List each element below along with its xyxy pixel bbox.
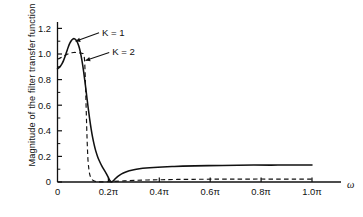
x-tick-label-3: 0.6π xyxy=(200,186,220,197)
x-tick-label-4: 0.8π xyxy=(251,186,271,197)
x-axis-label: ω xyxy=(347,179,354,190)
y-tick-label-0: 0 xyxy=(46,176,51,187)
x-tick-label-0: 0 xyxy=(55,186,60,197)
y-axis-tick-labels: 00.20.40.60.81.01.2 xyxy=(38,23,51,188)
y-axis-ticks xyxy=(58,28,63,182)
y-tick-label-5: 1.0 xyxy=(38,48,51,59)
x-tick-label-2: 0.4π xyxy=(150,186,170,197)
y-tick-label-2: 0.4 xyxy=(38,125,51,136)
figure-container: Magnitude of the filter transfer functio… xyxy=(0,0,363,217)
y-tick-label-6: 1.2 xyxy=(38,23,51,34)
series-line-k1 xyxy=(58,39,313,182)
annotation-label-1: K = 2 xyxy=(112,46,135,57)
y-tick-label-3: 0.6 xyxy=(38,100,51,111)
x-tick-label-1: 0.2π xyxy=(99,186,119,197)
x-tick-label-5: 1.0π xyxy=(302,186,322,197)
chart-plot-area: 00.20.40.60.81.01.2 00.2π0.4π0.6π0.8π1.0… xyxy=(0,0,363,217)
y-tick-label-1: 0.2 xyxy=(38,151,51,162)
x-axis-tick-labels: 00.2π0.4π0.6π0.8π1.0π xyxy=(55,186,322,197)
annotation-label-0: K = 1 xyxy=(102,27,125,38)
series-line-k2 xyxy=(58,52,313,181)
y-tick-label-4: 0.8 xyxy=(38,74,51,85)
chart-annotations: K = 1K = 2 xyxy=(76,27,135,62)
